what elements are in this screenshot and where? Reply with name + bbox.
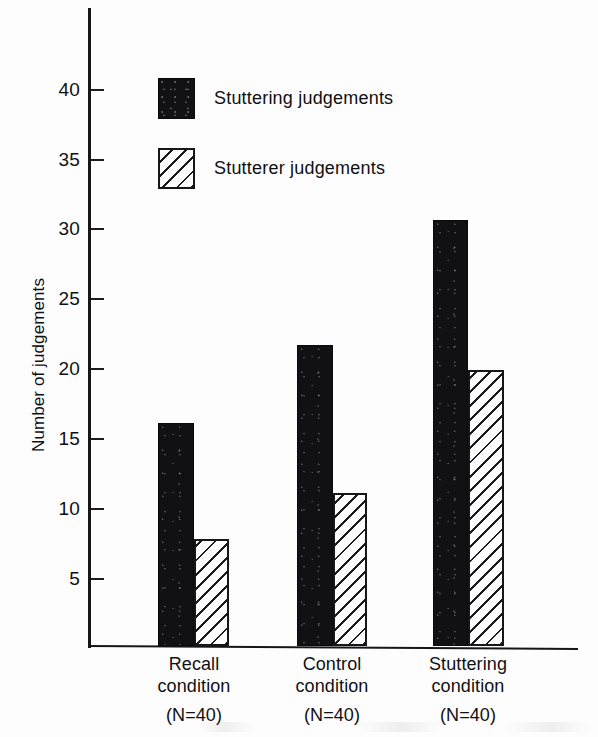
category-label-control-line1: Control [303,654,362,674]
y-tick-35 [91,159,104,161]
y-tick-label-25: 25 [36,288,80,310]
legend-label-stutterer-judgements: Stutterer judgements [214,158,385,179]
cut-off-caption-artifact [200,722,590,732]
bar-recall-stutterer-judgements [194,539,229,646]
bar-control-stutterer-judgements [333,493,367,646]
y-tick-15 [91,438,104,440]
bar-chart-figure: Number of judgements 40 35 30 25 20 15 1… [0,0,598,737]
y-tick-label-5: 5 [36,568,80,590]
category-label-recall-line1: Recall [169,654,220,674]
y-tick-25 [91,298,104,300]
bar-recall-stuttering-judgements [158,423,194,646]
bar-stuttering-stuttering-judgements [433,220,468,646]
y-tick-30 [91,228,104,230]
y-axis-line [88,8,91,648]
category-label-stuttering: Stuttering condition (N=40) [383,654,553,727]
y-tick-label-35: 35 [36,149,80,171]
y-tick-label-40: 40 [36,79,80,101]
legend-swatch-stutterer-judgements [158,148,195,189]
y-tick-label-15: 15 [36,428,80,450]
y-tick-label-20: 20 [36,358,80,380]
category-label-stuttering-line2: condition [432,676,505,696]
bar-stuttering-stutterer-judgements [468,370,504,646]
y-tick-10 [91,508,104,510]
category-label-stuttering-line1: Stuttering [429,654,507,674]
bar-control-stuttering-judgements [297,345,333,646]
y-tick-label-10: 10 [36,498,80,520]
legend-label-stuttering-judgements: Stuttering judgements [214,88,393,109]
y-tick-40 [91,89,104,91]
category-label-recall-line2: condition [158,676,231,696]
y-tick-label-30: 30 [36,218,80,240]
y-tick-5 [91,578,104,580]
legend-swatch-stuttering-judgements [158,78,195,119]
category-label-control-line2: condition [296,676,369,696]
y-tick-20 [91,368,104,370]
